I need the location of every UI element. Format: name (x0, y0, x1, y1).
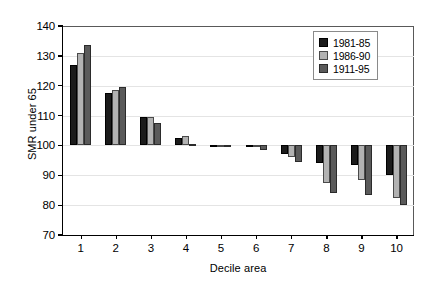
x-axis-tick-label: 8 (323, 242, 329, 254)
bar-1911-95-decile-8 (330, 145, 337, 193)
bar-1911-95-decile-9 (365, 145, 372, 194)
legend-label: 1986-90 (333, 50, 370, 62)
bar-1911-95-decile-5 (224, 145, 231, 147)
legend-item: 1911-95 (319, 62, 370, 75)
bar-1981-85-decile-3 (140, 117, 147, 145)
bar-1981-85-decile-6 (246, 145, 253, 147)
x-axis-tick (361, 235, 362, 239)
bar-1986-90-decile-3 (147, 117, 154, 145)
x-axis-tick (291, 235, 292, 239)
y-axis-tick (58, 115, 63, 116)
x-axis-tick-label: 9 (358, 242, 364, 254)
y-axis-tick (58, 25, 63, 26)
bar-1986-90-decile-8 (323, 145, 330, 182)
bar-1981-85-decile-5 (210, 145, 217, 147)
x-axis-tick-label: 3 (148, 242, 154, 254)
bar-1911-95-decile-1 (84, 45, 91, 146)
bar-1986-90-decile-7 (288, 145, 295, 157)
bar-1986-90-decile-10 (393, 145, 400, 197)
legend-swatch-icon (319, 38, 328, 47)
bar-1986-90-decile-5 (217, 145, 224, 147)
y-axis-tick-label: 80 (43, 199, 55, 211)
bar-1981-85-decile-10 (386, 145, 393, 175)
y-gridline (63, 205, 414, 206)
y-axis-tick-label: 120 (36, 80, 55, 92)
x-axis-title: Decile area (62, 262, 414, 274)
plot-frame-top (63, 26, 414, 27)
x-axis-tick (151, 235, 152, 239)
legend-label: 1981-85 (333, 37, 370, 49)
y-axis-tick (58, 234, 63, 235)
legend-item: 1986-90 (319, 49, 370, 62)
bar-1911-95-decile-4 (189, 144, 196, 146)
y-axis-tick-label: 100 (36, 139, 55, 151)
y-axis-tick-label: 140 (36, 20, 55, 32)
bar-1911-95-decile-10 (400, 145, 407, 205)
x-axis-tick (396, 235, 397, 239)
bar-1986-90-decile-6 (253, 145, 260, 147)
y-axis-tick-label: 70 (43, 229, 55, 241)
x-axis-tick (221, 235, 222, 239)
x-axis-tick-label: 7 (288, 242, 294, 254)
legend-swatch-icon (319, 64, 328, 73)
x-axis-tick (81, 235, 82, 239)
y-axis-tick (58, 55, 63, 56)
y-axis-tick-label: 130 (36, 50, 55, 62)
bar-1981-85-decile-1 (70, 65, 77, 145)
x-axis-tick-label: 1 (77, 242, 83, 254)
y-axis-tick-label: 110 (37, 110, 55, 122)
x-axis-tick (326, 235, 327, 239)
x-axis-tick (116, 235, 117, 239)
legend: 1981-851986-901911-95 (313, 31, 378, 80)
legend-item: 1981-85 (319, 36, 370, 49)
bar-1911-95-decile-6 (260, 145, 267, 149)
bar-1981-85-decile-9 (351, 145, 358, 164)
x-axis-tick (256, 235, 257, 239)
y-axis-tick (58, 205, 63, 206)
bar-1986-90-decile-1 (77, 53, 84, 145)
x-axis-tick-label: 6 (253, 242, 259, 254)
y-gridline (63, 86, 414, 87)
x-axis-tick (186, 235, 187, 239)
bar-1981-85-decile-2 (105, 93, 112, 145)
legend-swatch-icon (319, 51, 328, 60)
x-axis-tick-label: 10 (390, 242, 402, 254)
bar-1981-85-decile-4 (175, 138, 182, 145)
y-axis-tick (58, 85, 63, 86)
y-axis-tick-label: 90 (43, 169, 55, 181)
legend-label: 1911-95 (333, 63, 369, 75)
bar-1981-85-decile-7 (281, 145, 288, 154)
plot-frame-right (413, 26, 414, 235)
y-axis-tick (58, 145, 63, 146)
x-axis-tick-label: 5 (218, 242, 224, 254)
bar-1986-90-decile-2 (112, 90, 119, 146)
bar-1986-90-decile-4 (182, 136, 189, 145)
x-axis-tick-label: 4 (183, 242, 189, 254)
x-axis-tick-label: 2 (113, 242, 119, 254)
bar-1911-95-decile-2 (119, 87, 126, 146)
bar-1911-95-decile-7 (295, 145, 302, 161)
bar-1981-85-decile-8 (316, 145, 323, 163)
bar-1911-95-decile-3 (154, 123, 161, 145)
y-axis-tick (58, 175, 63, 176)
chart-container: SMR under 65 708090100110120130140123456… (0, 0, 429, 286)
bar-1986-90-decile-9 (358, 145, 365, 179)
